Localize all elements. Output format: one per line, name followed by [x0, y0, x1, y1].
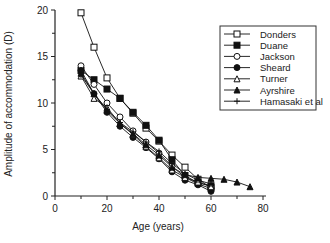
x-tick-label: 0	[52, 203, 58, 214]
x-tick-label: 20	[101, 203, 113, 214]
y-tick-label: 0	[42, 191, 48, 202]
x-axis-label: Age (years)	[132, 221, 184, 232]
legend: DondersDuaneJacksonSheardTurnerAyrshireH…	[220, 26, 323, 110]
legend-label: Hamasaki et al	[260, 96, 323, 107]
legend-label: Donders	[260, 29, 296, 40]
y-axis-label: Amplitude of accommodation (D)	[3, 31, 14, 177]
legend-label: Duane	[260, 40, 288, 51]
accommodation-chart: 02040608005101520 DondersDuaneJacksonShe…	[0, 0, 330, 243]
legend-label: Ayrshire	[260, 85, 295, 96]
legend-label: Sheard	[260, 62, 291, 73]
y-tick-label: 10	[37, 98, 49, 109]
series-duane	[78, 67, 214, 188]
x-tick-label: 40	[153, 203, 165, 214]
x-tick-label: 60	[205, 203, 217, 214]
y-tick-label: 5	[42, 144, 48, 155]
y-tick-label: 15	[37, 51, 49, 62]
x-tick-label: 80	[257, 203, 269, 214]
y-tick-label: 20	[37, 5, 49, 16]
legend-label: Jackson	[260, 51, 295, 62]
legend-label: Turner	[260, 73, 288, 84]
